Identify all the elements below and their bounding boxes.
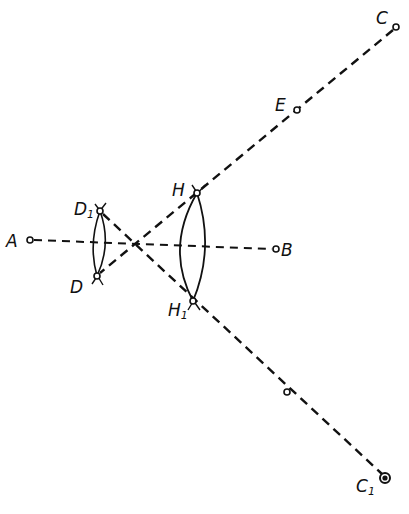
point-c — [393, 24, 399, 30]
point-d1 — [97, 208, 103, 214]
line-d1c1 — [103, 214, 382, 474]
line-ab — [34, 240, 272, 249]
point-h — [194, 190, 200, 196]
label-h: H — [172, 180, 185, 200]
label-e: E — [275, 95, 286, 115]
label-h1: H1 — [168, 300, 188, 322]
point-h1 — [190, 298, 196, 304]
label-c: C — [376, 8, 388, 28]
label-b: B — [281, 240, 293, 260]
point-e — [294, 107, 300, 113]
point-a — [27, 237, 33, 243]
point-d — [94, 273, 100, 279]
point-b — [273, 246, 279, 252]
label-d1: D1 — [74, 199, 94, 221]
label-a: A — [5, 231, 18, 251]
line-cd — [100, 30, 393, 273]
point-c1-center — [382, 475, 387, 480]
label-c1: C1 — [356, 476, 375, 498]
label-d: D — [70, 277, 83, 297]
point-m — [284, 389, 290, 395]
arc-d-left — [93, 211, 100, 276]
construction-diagram: A B C E H D D1 H1 C1 — [0, 0, 409, 514]
